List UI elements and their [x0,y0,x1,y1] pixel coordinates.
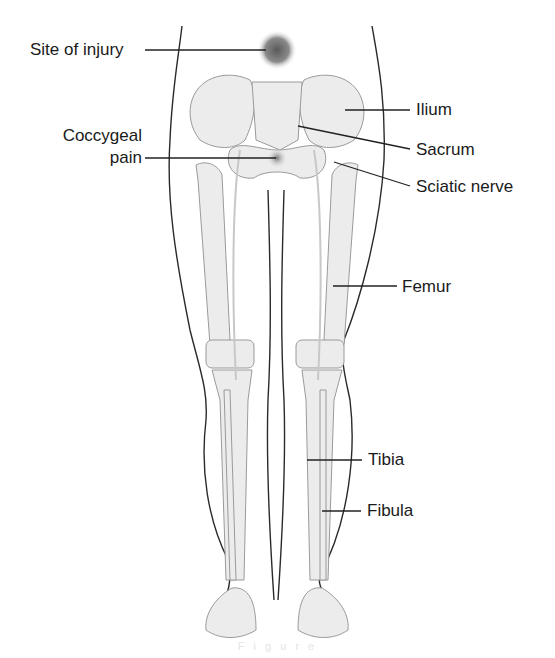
anatomy-illustration [0,0,555,658]
label-ilium: Ilium [416,100,452,120]
label-coccygeal: Coccygeal [48,126,142,146]
label-femur: Femur [402,277,451,297]
label-sciatic-nerve: Sciatic nerve [416,177,513,197]
label-tibia: Tibia [368,450,404,470]
label-fibula: Fibula [367,501,413,521]
figure-caption: F i g u r e [0,640,555,652]
label-pain: pain [48,148,142,168]
anatomy-figure: Site of injury Coccygeal pain Ilium Sacr… [0,0,555,658]
label-site-of-injury: Site of injury [30,40,124,60]
leg-bones [196,150,358,638]
label-sacrum: Sacrum [416,140,475,160]
